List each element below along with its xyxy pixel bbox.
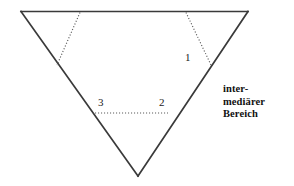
- region-label-1: 1: [185, 52, 191, 63]
- caption-line-1: inter-: [223, 83, 293, 96]
- intermediate-region-caption: inter- mediärer Bereich: [223, 83, 293, 121]
- triangle-left-edge: [21, 12, 138, 177]
- caption-line-2: mediärer: [223, 96, 293, 109]
- region-label-2: 2: [159, 97, 165, 108]
- region-label-3: 3: [98, 97, 104, 108]
- left-diagonal-dotted-line: [57, 13, 80, 66]
- caption-line-3: Bereich: [223, 108, 293, 121]
- diagram-canvas: 1 2 3 inter- mediärer Bereich: [0, 0, 294, 186]
